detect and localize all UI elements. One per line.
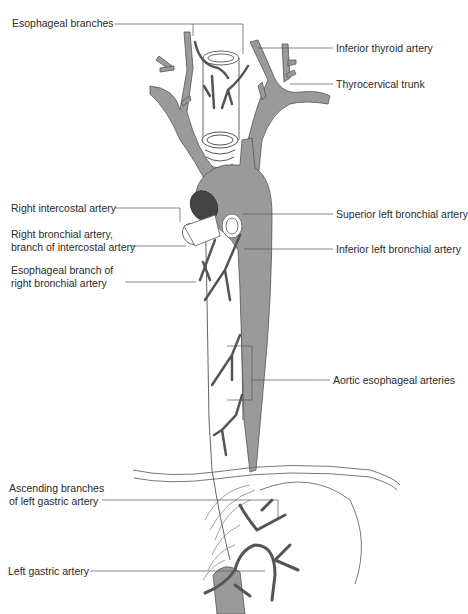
label-line: of left gastric artery [9,495,104,508]
label-aortic-esophageal-arteries: Aortic esophageal arteries [333,374,455,387]
label-line: Right bronchial artery, [11,228,135,241]
label-right-bronchial-artery: Right bronchial artery, branch of interc… [11,228,135,253]
label-ascending-branches-left-gastric: Ascending branches of left gastric arter… [9,482,104,507]
label-line: Ascending branches [9,482,104,495]
label-esophageal-branches: Esophageal branches [12,17,114,30]
label-right-intercostal-artery: Right intercostal artery [11,202,116,215]
esophagus [203,51,243,560]
label-superior-left-bronchial-artery: Superior left bronchial artery [336,208,468,221]
label-left-gastric-artery: Left gastric artery [8,565,89,578]
label-line: branch of intercostal artery [11,241,135,254]
bronchi [179,214,242,248]
label-line: Esophageal branch of [11,264,113,277]
label-esophageal-branch-right-bronchial: Esophageal branch of right bronchial art… [11,264,113,289]
leader-lines [90,24,333,571]
label-inferior-left-bronchial-artery: Inferior left bronchial artery [336,243,461,256]
label-line: right bronchial artery [11,277,113,290]
label-inferior-thyroid-artery: Inferior thyroid artery [336,42,433,55]
stomach-region [203,485,255,580]
label-thyrocervical-trunk: Thyrocervical trunk [336,78,425,91]
